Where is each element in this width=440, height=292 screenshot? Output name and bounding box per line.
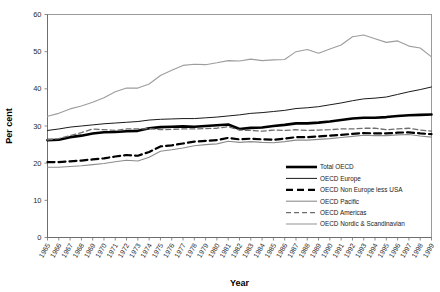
line-chart: 0102030405060196519661967196819691970197… (0, 0, 440, 292)
series-line-0 (48, 114, 432, 140)
series-line-5 (48, 35, 432, 116)
y-axis-title: Per cent (4, 108, 14, 144)
x-axis-title: Year (230, 278, 250, 288)
y-tick-label: 10 (33, 196, 41, 205)
y-tick-label: 60 (33, 10, 41, 19)
legend-label-4: OECD Americas (320, 209, 367, 216)
legend-label-5: OECD Nordic & Scandinavian (320, 220, 405, 227)
y-tick-label: 40 (33, 84, 41, 93)
y-tick-label: 50 (33, 47, 41, 56)
chart-legend: Total OECDOECD EuropeOECD Non Europe les… (286, 163, 405, 227)
series-line-1 (48, 87, 432, 130)
y-tick-label: 0 (37, 233, 41, 242)
x-tick-label: 1999 (422, 242, 436, 259)
plot-frame (48, 15, 432, 238)
series-line-2 (48, 132, 432, 162)
y-tick-label: 30 (33, 122, 41, 131)
chart-container: 0102030405060196519661967196819691970197… (0, 0, 440, 292)
y-tick-label: 20 (33, 159, 41, 168)
legend-label-1: OECD Europe (320, 175, 361, 183)
legend-label-2: OECD Non Europe less USA (320, 186, 403, 194)
legend-label-3: OECD Pacific (320, 198, 360, 205)
legend-label-0: Total OECD (320, 163, 354, 170)
